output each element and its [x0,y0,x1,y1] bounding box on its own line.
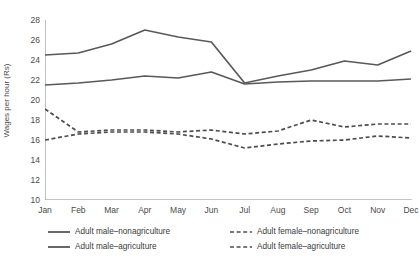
y-tick-label: 16 [22,135,40,145]
y-tick-label: 26 [22,35,40,45]
y-axis-tick-labels: 10121416182022242628 [20,20,40,200]
series-line-3 [45,132,411,148]
y-tick-label: 24 [22,55,40,65]
x-tick-label: Dec [394,205,419,215]
y-axis-title: Wages per hour (Rs) [0,0,14,200]
dashed-line-icon [230,227,252,237]
legend-label: Adult male–agriculture [75,242,156,251]
solid-line-icon [48,227,70,237]
y-tick-label: 20 [22,95,40,105]
x-tick-label: Nov [361,205,395,215]
legend-column-left: Adult male–nonagricultureAdult male–agri… [48,224,228,254]
solid-line-icon [48,242,70,252]
legend-item[interactable]: Adult female–nonagriculture [230,224,410,239]
wages-per-hour-line-chart: Wages per hour (Rs) 10121416182022242628… [0,0,419,256]
legend-column-right: Adult female–nonagricultureAdult female–… [230,224,410,254]
legend-item[interactable]: Adult male–nonagriculture [48,224,228,239]
y-axis-title-text: Wages per hour (Rs) [3,63,12,137]
y-tick-label: 10 [22,195,40,205]
x-tick-label: Aug [261,205,295,215]
legend-label: Adult female–agriculture [257,242,345,251]
y-tick-label: 12 [22,175,40,185]
y-tick-label: 18 [22,115,40,125]
legend-label: Adult male–nonagriculture [75,227,170,236]
series-line-0 [45,30,411,83]
x-tick-label: Jan [28,205,62,215]
series-line-1 [45,72,411,85]
legend-label: Adult female–nonagriculture [257,227,359,236]
x-tick-label: Oct [327,205,361,215]
x-tick-label: Mar [95,205,129,215]
series-line-2 [45,109,411,134]
plot-area [45,20,412,200]
chart-svg [45,20,412,200]
x-axis-tick-labels: JanFebMarAprMayJunJulAugSepOctNovDec [45,205,412,219]
x-tick-label: Apr [128,205,162,215]
x-tick-label: Jul [228,205,262,215]
y-tick-label: 14 [22,155,40,165]
dashed-line-icon [230,242,252,252]
legend-item[interactable]: Adult male–agriculture [48,239,228,254]
y-tick-label: 22 [22,75,40,85]
x-tick-label: Feb [61,205,95,215]
x-tick-label: Jun [194,205,228,215]
legend-item[interactable]: Adult female–agriculture [230,239,410,254]
x-tick-label: May [161,205,195,215]
x-tick-label: Sep [294,205,328,215]
chart-legend: Adult male–nonagricultureAdult male–agri… [48,224,414,254]
y-tick-label: 28 [22,15,40,25]
